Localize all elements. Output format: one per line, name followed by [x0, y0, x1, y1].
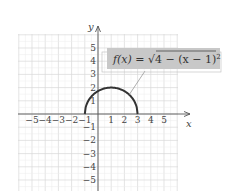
y-tick-label: 5	[90, 43, 96, 53]
y-tick-label: 3	[90, 69, 96, 79]
x-axis-label: x	[186, 118, 192, 129]
x-tick-label: −2	[65, 115, 78, 125]
x-tick-label: 4	[148, 115, 154, 125]
x-tick-label: 1	[108, 115, 114, 125]
y-tick-label: −1	[83, 122, 96, 132]
x-tick-label: 2	[122, 115, 128, 125]
x-tick-label: 3	[135, 115, 141, 125]
x-tick-label: −3	[52, 115, 66, 125]
y-tick-label: −3	[83, 149, 97, 159]
function-label: f(x) = √4 − (x − 1)2	[112, 53, 221, 66]
x-tick-label: −4	[39, 115, 53, 125]
x-tick-label: −5	[25, 115, 39, 125]
y-tick-label: −5	[83, 175, 97, 185]
y-axis-label: y	[87, 21, 94, 32]
y-tick-label: −4	[83, 162, 97, 172]
x-tick-label: 5	[161, 115, 167, 125]
y-tick-label: 4	[90, 56, 96, 66]
y-tick-label: 2	[90, 83, 96, 93]
y-tick-label: −2	[83, 135, 96, 145]
function-graph: xy−5−4−3−2−11234554321−1−2−3−4−5f(x) = √…	[0, 0, 234, 191]
